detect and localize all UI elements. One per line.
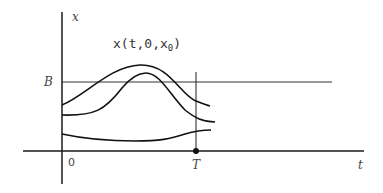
trajectory-lower	[62, 130, 211, 141]
trajectory-upper	[62, 65, 210, 106]
trajectory-diagram: x x(t,0,x0) B 0 T t	[0, 0, 383, 193]
trajectory-middle	[62, 73, 215, 122]
trajectory-label: x(t,0,x0)	[113, 36, 181, 53]
origin-label: 0	[68, 156, 75, 169]
t-axis-label: t	[358, 158, 363, 172]
y-axis-label: x	[72, 10, 79, 24]
final-time-point	[193, 148, 199, 154]
final-time-label: T	[192, 158, 201, 172]
threshold-label: B	[43, 75, 53, 89]
